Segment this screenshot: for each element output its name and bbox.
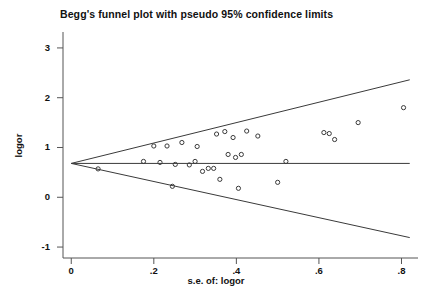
data-point <box>276 180 280 184</box>
data-point <box>165 144 169 148</box>
data-point <box>245 129 249 133</box>
ci-upper-limit-line <box>71 80 409 164</box>
data-point <box>200 169 204 173</box>
data-point <box>193 159 197 163</box>
data-point <box>218 177 222 181</box>
data-point <box>212 166 216 170</box>
x-tick-label: .2 <box>142 265 166 276</box>
y-axis-ticks <box>57 48 63 247</box>
x-tick-label: .6 <box>307 265 331 276</box>
data-point <box>223 129 227 133</box>
ci-lower-limit-line <box>71 163 409 237</box>
y-tick-label: -1 <box>26 241 50 252</box>
x-tick-label: .4 <box>224 265 248 276</box>
data-point <box>356 120 360 124</box>
data-point <box>231 135 235 139</box>
data-point <box>141 159 145 163</box>
data-point <box>206 166 210 170</box>
data-point <box>226 152 230 156</box>
data-point <box>236 186 240 190</box>
data-point <box>239 152 243 156</box>
plot-canvas <box>0 0 432 296</box>
axes <box>63 32 418 258</box>
data-point <box>284 159 288 163</box>
data-point <box>180 140 184 144</box>
data-point <box>214 132 218 136</box>
data-point <box>233 155 237 159</box>
y-tick-label: 1 <box>26 141 50 152</box>
data-point <box>401 106 405 110</box>
funnel-plot-figure: Begg's funnel plot with pseudo 95% confi… <box>0 0 432 296</box>
x-tick-label: .8 <box>389 265 413 276</box>
data-point <box>195 144 199 148</box>
y-tick-label: 3 <box>26 42 50 53</box>
data-point <box>152 144 156 148</box>
x-axis-label: s.e. of: logor <box>0 275 432 286</box>
y-tick-label: 2 <box>26 92 50 103</box>
data-point-group <box>96 106 406 191</box>
data-point <box>256 134 260 138</box>
confidence-limit-lines <box>71 80 409 238</box>
data-point <box>333 137 337 141</box>
y-axis-label: logor <box>13 116 24 176</box>
x-tick-label: 0 <box>59 265 83 276</box>
data-point <box>322 130 326 134</box>
data-point <box>327 131 331 135</box>
y-tick-label: 0 <box>26 191 50 202</box>
x-axis-ticks <box>71 258 401 264</box>
